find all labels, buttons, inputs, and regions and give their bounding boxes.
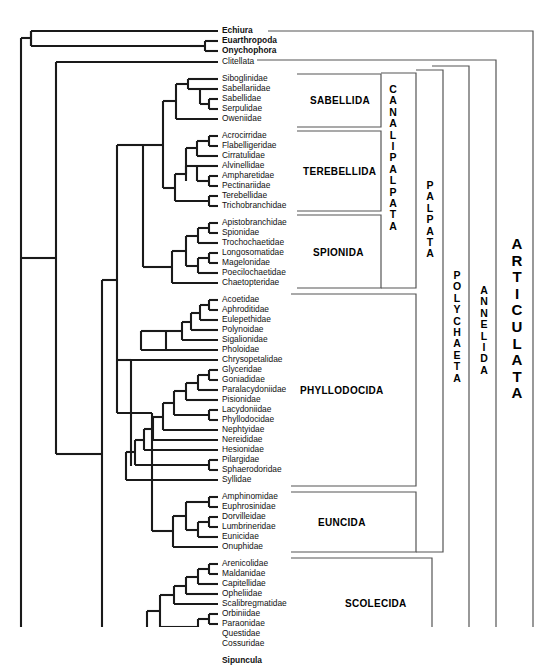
clade-label-palpata: PALPATA [422, 180, 438, 260]
leaf-label: Questidae [222, 629, 260, 637]
clade-label-annelida: ANNELIDA [476, 285, 492, 376]
order-label-spionida: SPIONIDA [313, 247, 364, 258]
leaf-label: Cossuridae [222, 639, 264, 647]
order-label-phyllodocida: PHYLLODOCIDA [300, 385, 384, 396]
clade-label-canalipalpata: CANALIPALPATA [385, 84, 401, 232]
leaf-label: Sipuncula [222, 656, 262, 664]
order-label-scolecida: SCOLECIDA [345, 598, 407, 609]
order-label-sabellida: SABELLIDA [310, 95, 370, 106]
clade-label-articulata: ARTICULATA [506, 236, 528, 402]
order-label-terebellida: TEREBELLIDA [303, 166, 376, 177]
order-label-euncida: EUNCIDA [318, 517, 366, 528]
clade-label-polychaeta: POLYCHAETA [449, 270, 465, 384]
